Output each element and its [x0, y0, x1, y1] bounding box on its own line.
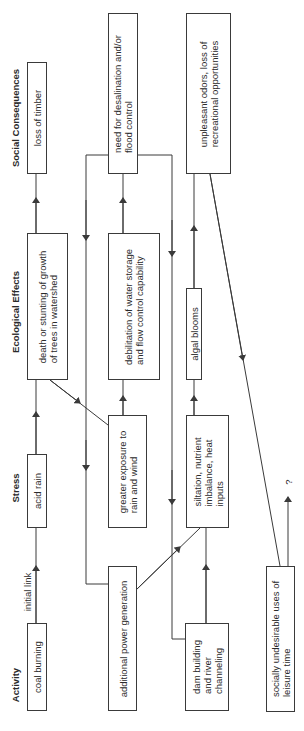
box-dam-building: dam building and river channeling [185, 623, 229, 711]
box-coal-burning: coal burning [27, 623, 47, 711]
box-unpleasant-odors: unpleasant odors, loss of recreational o… [186, 13, 231, 174]
box-desalination-flood-control: need for desalination and/or flood contr… [108, 13, 138, 174]
box-greater-exposure: greater exposure to rain and wind [108, 415, 147, 528]
box-socially-undesirable-leisure: socially undesirable uses of leisure tim… [266, 566, 295, 712]
box-label: unpleasant odors, loss of recreational o… [198, 40, 220, 147]
box-label: coal burning [32, 641, 43, 693]
box-label: acid rain [32, 473, 43, 509]
box-acid-rain: acid rain [27, 454, 47, 528]
box-debilitation-water-storage: debilitation of water storage and flow c… [108, 233, 160, 380]
box-label: need for desalination and/or flood contr… [112, 35, 134, 153]
column-header-stress: Stress [10, 473, 21, 502]
box-label: socially undesirable uses of leisure tim… [270, 581, 292, 697]
box-label: debilitation of water storage and flow c… [123, 248, 145, 364]
box-label: siltation, nutrient imbalance, heat inpu… [191, 437, 224, 506]
box-label: death or stunting of growth of trees in … [37, 250, 59, 363]
box-label: dam building and river channeling [191, 640, 224, 694]
box-label: additional power generation [117, 580, 128, 697]
column-header-social-consequences: Social Consequences [10, 69, 21, 167]
label-initial-link: initial link [22, 573, 33, 612]
box-siltation: siltation, nutrient imbalance, heat inpu… [186, 415, 229, 528]
box-label: loss of timber [32, 90, 43, 147]
box-additional-power-generation: additional power generation [108, 566, 137, 711]
box-label: greater exposure to rain and wind [117, 430, 139, 512]
box-death-of-trees: death or stunting of growth of trees in … [27, 233, 68, 380]
column-header-ecological-effects: Ecological Effects [10, 271, 21, 353]
box-algal-blooms: algal blooms [186, 288, 202, 380]
column-header-activity: Activity [10, 668, 21, 702]
box-loss-of-timber: loss of timber [27, 62, 47, 174]
box-label: algal blooms [189, 307, 200, 360]
label-question-mark: ? [283, 479, 294, 484]
